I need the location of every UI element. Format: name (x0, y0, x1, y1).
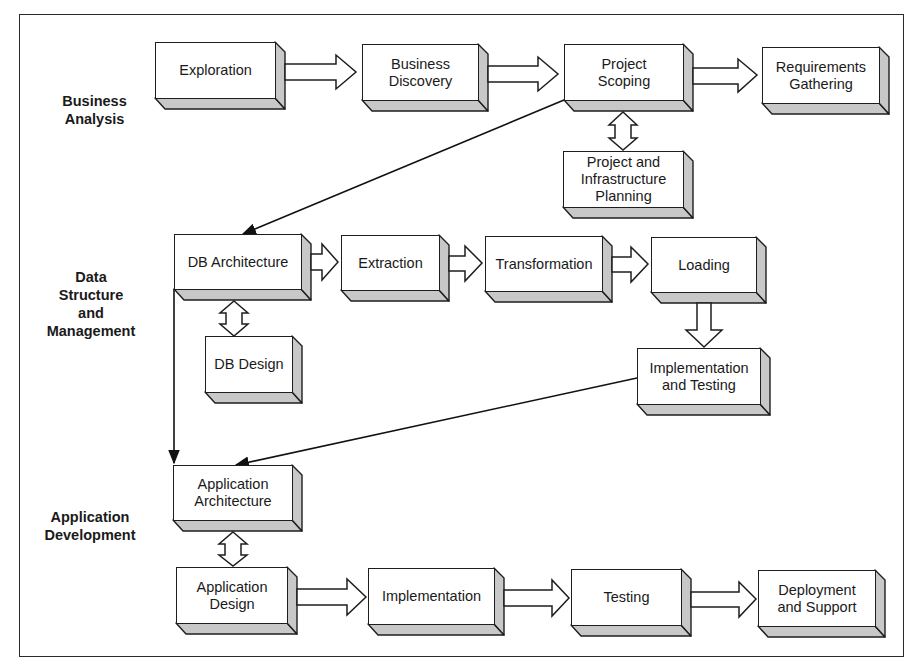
box-label: Application Design (176, 567, 288, 624)
box-application-architecture: Application Architecture (173, 465, 293, 521)
box-label: Deployment and Support (758, 570, 876, 627)
box-db-design: DB Design (205, 336, 293, 393)
box-label: Loading (651, 237, 757, 293)
box-label: Application Architecture (173, 465, 293, 521)
box-project-scoping: Project Scoping (564, 44, 684, 101)
box-loading: Loading (651, 237, 757, 293)
box-testing: Testing (571, 569, 682, 626)
box-extraction: Extraction (341, 235, 440, 291)
box-label: Transformation (485, 236, 603, 292)
box-db-architecture: DB Architecture (174, 234, 302, 290)
box-transformation: Transformation (485, 236, 603, 292)
box-label: DB Design (205, 336, 293, 393)
box-business-discovery: Business Discovery (362, 44, 479, 101)
box-label: Testing (571, 569, 682, 626)
phase-label-business-analysis: Business Analysis (52, 92, 137, 128)
phase-label-data-structure: Data Structure and Management (38, 268, 144, 340)
box-label: Project Scoping (564, 44, 684, 101)
phase-label-application-development: Application Development (36, 508, 144, 544)
box-label: Business Discovery (362, 44, 479, 101)
box-label: Extraction (341, 235, 440, 291)
box-requirements-gathering: Requirements Gathering (762, 47, 880, 104)
box-label: Exploration (155, 42, 276, 99)
box-label: Project and Infrastructure Planning (563, 151, 684, 208)
box-project-infrastructure-planning: Project and Infrastructure Planning (563, 151, 684, 208)
box-label: Implementation and Testing (637, 348, 761, 405)
box-exploration: Exploration (155, 42, 276, 99)
diagram-frame (19, 14, 904, 657)
box-label: Implementation (368, 568, 495, 625)
box-label: DB Architecture (174, 234, 302, 290)
box-implementation-and-testing: Implementation and Testing (637, 348, 761, 405)
box-label: Requirements Gathering (762, 47, 880, 104)
box-application-design: Application Design (176, 567, 288, 624)
box-implementation: Implementation (368, 568, 495, 625)
box-deployment-and-support: Deployment and Support (758, 570, 876, 627)
